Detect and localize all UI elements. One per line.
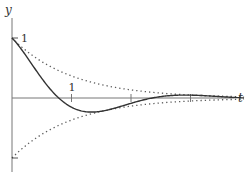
series-damped-oscillation	[12, 38, 244, 112]
x-axis-label: t	[238, 91, 243, 105]
y-axis-label: y	[4, 3, 12, 17]
x-tick-label: 1	[69, 81, 76, 94]
y-tick-label: 1	[21, 32, 28, 45]
series-upper-envelope	[12, 38, 244, 97]
ticks: 11	[12, 32, 191, 158]
chart: 11 y t	[0, 0, 252, 177]
series-lower-envelope	[12, 99, 244, 158]
